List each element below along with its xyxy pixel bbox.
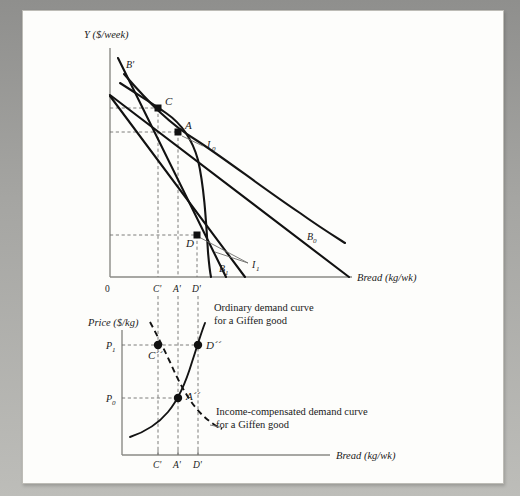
upper-origin-label: 0 xyxy=(105,284,110,294)
point-D-marker xyxy=(194,232,201,239)
svg-text:1: 1 xyxy=(256,265,260,273)
upper-x-axis-label: Bread (kg/wk) xyxy=(357,272,417,284)
upper-y-axis-label: Y ($/week) xyxy=(84,29,129,41)
svg-text:B': B' xyxy=(126,59,135,70)
upper-panel: Y ($/week) Bread (kg/wk) 0 C A D B' B 0 … xyxy=(84,29,417,294)
point-C-marker xyxy=(155,105,162,112)
point-D-label: D xyxy=(185,237,194,249)
svg-text:Income-compensated demand curv: Income-compensated demand curve xyxy=(216,406,368,417)
upper-xtick-D-prime: D' xyxy=(191,284,202,294)
lower-ytick-P0: P 0 xyxy=(105,393,116,407)
giffen-good-figure: Y ($/week) Bread (kg/wk) 0 C A D B' B 0 … xyxy=(0,0,520,496)
budget-line-B0 xyxy=(110,95,349,277)
lower-panel: Price ($/kg) Bread (kg/wk) P 1 P 0 C´´ D… xyxy=(87,302,396,470)
svg-text:1: 1 xyxy=(225,269,229,277)
lower-xtick-C-prime: C' xyxy=(153,460,162,470)
upper-xtick-C-prime: C' xyxy=(153,284,162,294)
point-A-double-prime-marker xyxy=(174,394,182,402)
lower-ytick-P1: P 1 xyxy=(105,340,116,354)
lower-y-axis-label: Price ($/kg) xyxy=(87,317,139,329)
svg-text:1: 1 xyxy=(112,346,116,354)
page-background: Y ($/week) Bread (kg/wk) 0 C A D B' B 0 … xyxy=(0,0,520,496)
point-C-double-prime-marker xyxy=(154,341,162,349)
lower-x-axis-label: Bread (kg/wk) xyxy=(336,450,396,462)
lower-xtick-D-prime: D' xyxy=(192,460,203,470)
svg-text:for a Giffen good: for a Giffen good xyxy=(214,315,288,326)
point-A-label: A xyxy=(184,119,192,131)
point-D-double-prime-marker xyxy=(194,341,202,349)
point-A-marker xyxy=(175,129,182,136)
point-C-double-prime-label: C´´ xyxy=(148,349,163,361)
svg-text:0: 0 xyxy=(313,237,317,245)
upper-xtick-A-prime: A' xyxy=(172,284,182,294)
leader-I1 xyxy=(215,252,248,263)
svg-text:0: 0 xyxy=(112,399,116,407)
panel-connectors xyxy=(158,296,198,455)
curve-label-B-prime: B' xyxy=(126,59,135,70)
annotation-income-compensated-demand: Income-compensated demand curve for a Gi… xyxy=(216,406,368,430)
point-A-double-prime-label: A´´ xyxy=(185,390,200,402)
svg-text:I: I xyxy=(206,139,211,150)
point-C-label: C xyxy=(165,95,173,107)
curve-label-B0: B 0 xyxy=(307,231,317,245)
curve-label-I1: I 1 xyxy=(251,259,260,273)
svg-text:0: 0 xyxy=(212,145,216,153)
point-D-double-prime-label: D´´ xyxy=(205,339,222,351)
curve-label-B1: B 1 xyxy=(219,263,229,277)
svg-text:for a Giffen good: for a Giffen good xyxy=(216,419,290,430)
ordinary-demand-curve xyxy=(130,323,205,437)
lower-xtick-A-prime: A' xyxy=(172,460,182,470)
annotation-ordinary-demand: Ordinary demand curve for a Giffen good xyxy=(214,302,314,326)
leader-I1-from-D xyxy=(197,236,248,263)
svg-text:Ordinary demand curve: Ordinary demand curve xyxy=(214,302,314,313)
budget-line-B-prime xyxy=(118,58,226,277)
